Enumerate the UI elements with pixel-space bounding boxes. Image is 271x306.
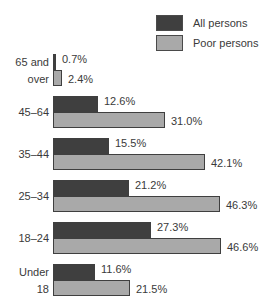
value-label-poor-persons: 46.3% [226,199,257,212]
value-label-all-persons: 21.2% [135,179,166,192]
bar-all-persons [53,138,109,154]
bar-poor-persons [53,238,221,254]
category-label-line1: 65 and [0,56,49,69]
category-label: 25–34 [0,190,49,203]
category-label-line2: 18 [0,283,49,296]
bar-all-persons [53,96,98,112]
category-label: Under18 [0,266,49,296]
value-label-all-persons: 27.3% [157,221,188,234]
bar-all-persons [53,222,151,238]
category-label-line2: over [0,73,49,86]
legend-label-all-persons: All persons [193,17,247,29]
bar-poor-persons [53,112,165,128]
value-label-poor-persons: 21.5% [136,283,167,296]
value-label-all-persons: 12.6% [104,95,135,108]
bar-all-persons [53,180,129,196]
bar-poor-persons [53,154,205,170]
bar-poor-persons [53,196,220,212]
value-label-poor-persons: 31.0% [171,115,202,128]
value-label-all-persons: 15.5% [115,137,146,150]
value-label-poor-persons: 2.4% [68,73,93,86]
value-label-all-persons: 0.7% [62,53,87,66]
category-label: 35–44 [0,148,49,161]
category-label: 18–24 [0,232,49,245]
category-label: 65 andover [0,56,49,86]
legend-label-poor-persons: Poor persons [193,37,258,49]
value-label-poor-persons: 42.1% [211,157,242,170]
category-label: 45–64 [0,106,49,119]
category-label-line1: Under [0,266,49,279]
bar-poor-persons [53,70,62,86]
value-label-poor-persons: 46.6% [227,241,258,254]
bar-all-persons [53,54,56,70]
bar-poor-persons [53,280,130,296]
bar-all-persons [53,264,95,280]
value-label-all-persons: 11.6% [101,263,131,276]
legend-swatch-poor-persons [156,35,183,51]
legend-swatch-all-persons [156,15,183,31]
